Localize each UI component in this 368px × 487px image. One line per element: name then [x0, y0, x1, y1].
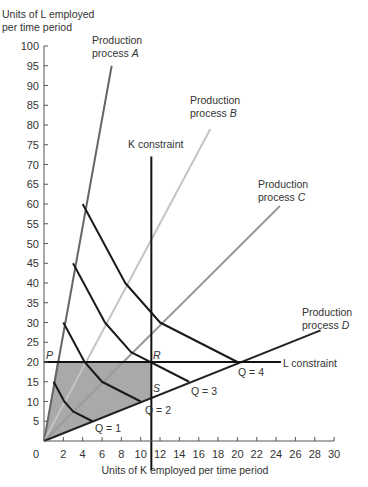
x-tick-label: 4: [80, 448, 86, 460]
y-tick-label: 90: [27, 80, 39, 92]
process-b-label: Production: [190, 94, 240, 106]
x-tick-label: 18: [212, 448, 224, 460]
y-tick-label: 95: [27, 60, 39, 72]
y-tick-label: 25: [27, 336, 39, 348]
process-c-label: Production: [258, 178, 308, 190]
y-tick-label: 5: [33, 415, 39, 427]
process-a-label-line2: process A: [92, 47, 139, 59]
k-constraint-label: K constraint: [128, 138, 184, 150]
x-tick-label: 0: [33, 448, 39, 460]
l-constraint-label: L constraint: [283, 357, 337, 369]
x-tick-label: 8: [118, 448, 124, 460]
process-a-label: Production: [92, 34, 142, 46]
y-tick-label: 100: [21, 40, 39, 52]
y-tick-label: 70: [27, 159, 39, 171]
y-tick-label: 65: [27, 178, 39, 190]
x-tick-label: 12: [154, 448, 166, 460]
process-d-label: Production: [302, 306, 352, 318]
x-tick-label: 28: [309, 448, 321, 460]
point-p-label: P: [46, 349, 53, 361]
y-tick-label: 85: [27, 99, 39, 111]
x-tick-label: 14: [173, 448, 185, 460]
x-tick-label: 20: [231, 448, 243, 460]
x-tick-label: 26: [289, 448, 301, 460]
x-tick-label: 24: [270, 448, 282, 460]
isoquant-q4-label: Q = 4: [238, 366, 264, 378]
y-tick-label: 10: [27, 396, 39, 408]
isoquant-q3-label: Q = 3: [191, 385, 217, 397]
y-axis-label: Units of L employed: [2, 8, 95, 20]
y-tick-label: 35: [27, 297, 39, 309]
y-tick-label: 75: [27, 139, 39, 151]
process-d-label-line2: process D: [302, 319, 350, 331]
y-tick-label: 80: [27, 119, 39, 131]
y-tick-label: 60: [27, 198, 39, 210]
y-tick-label: 55: [27, 218, 39, 230]
x-tick-label: 30: [328, 448, 340, 460]
point-s-label: S: [153, 382, 160, 394]
isoquant-q1-label: Q = 1: [95, 422, 121, 434]
y-tick-label: 30: [27, 317, 39, 329]
x-tick-label: 10: [135, 448, 147, 460]
y-tick-label: 50: [27, 238, 39, 250]
x-tick-label: 6: [99, 448, 105, 460]
x-tick-label: 2: [60, 448, 66, 460]
y-axis-label-line2: per time period: [2, 21, 72, 33]
isoquant-q2-label: Q = 2: [145, 404, 171, 416]
process-c-label-line2: process C: [258, 191, 306, 203]
y-tick-label: 45: [27, 257, 39, 269]
process-b-label-line2: process B: [190, 107, 237, 119]
y-tick-label: 40: [27, 277, 39, 289]
y-tick-label: 15: [27, 376, 39, 388]
isoquant-q4: [83, 204, 238, 362]
x-tick-label: 22: [251, 448, 263, 460]
point-r-label: R: [153, 349, 161, 361]
y-tick-label: 20: [27, 356, 39, 368]
production-process-chart: 5101520253035404550556065707580859095100…: [0, 0, 368, 487]
x-axis-label: Units of K employed per time period: [102, 464, 269, 476]
x-tick-label: 16: [193, 448, 205, 460]
